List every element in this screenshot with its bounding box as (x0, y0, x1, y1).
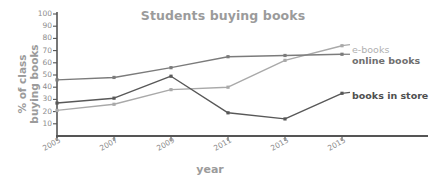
data-point-marker (169, 88, 172, 91)
series-line-online-books (57, 54, 342, 80)
data-point-marker (112, 76, 115, 79)
series-lines (55, 44, 343, 120)
data-point-marker (226, 111, 229, 114)
data-point-marker (112, 103, 115, 106)
legend-markers (342, 45, 350, 94)
line-chart: Students buying books % of class buying … (0, 0, 434, 184)
data-point-marker (55, 78, 58, 81)
data-point-marker (283, 59, 286, 62)
data-point-marker (283, 117, 286, 120)
data-point-marker (55, 109, 58, 112)
data-point-marker (169, 75, 172, 78)
data-point-marker (55, 101, 58, 104)
data-point-marker (283, 54, 286, 57)
axes (53, 12, 428, 141)
data-point-marker (169, 66, 172, 69)
legend-item-online-books: online books (352, 56, 420, 66)
data-point-marker (112, 97, 115, 100)
series-line-books-in-store (57, 76, 342, 119)
legend-item-ebooks: e-books (352, 45, 389, 55)
data-point-marker (226, 55, 229, 58)
data-point-marker (226, 86, 229, 89)
legend-item-books-in-store: books in store (352, 91, 428, 101)
x-axis-label: year (160, 163, 260, 176)
